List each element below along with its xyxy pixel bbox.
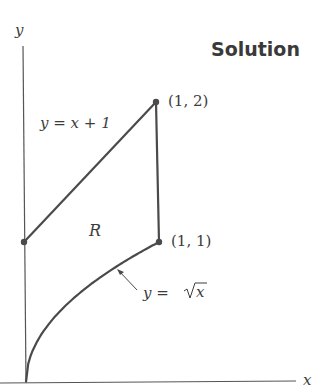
y-axis-label: y (14, 21, 24, 39)
x-axis (0, 381, 296, 383)
vertical-boundary-x-1 (156, 102, 159, 242)
sqrt-curve (26, 242, 159, 382)
sqrt-label-radicand: x (196, 283, 205, 301)
arrow-head-icon (117, 269, 124, 275)
point-1-1 (156, 239, 162, 245)
region-label: R (88, 221, 101, 240)
sqrt-label-arrow (119, 271, 137, 290)
line-label: y = x + 1 (39, 114, 111, 132)
point-1-1-label: (1, 1) (171, 232, 211, 250)
point-0-1 (21, 239, 27, 245)
region-diagram: y x (1, 2) (1, 1) y = x + 1 R y = x (0, 0, 312, 391)
point-1-2-label: (1, 2) (168, 92, 208, 110)
y-axis (23, 46, 26, 383)
point-1-2 (153, 99, 159, 105)
sqrt-label-lhs: y = (142, 284, 174, 302)
x-axis-label: x (303, 371, 312, 389)
